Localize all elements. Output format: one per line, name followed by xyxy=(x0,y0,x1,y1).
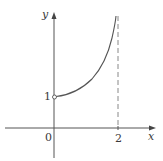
y-axis-label: y xyxy=(42,9,48,20)
y-axis-arrow-icon xyxy=(52,12,57,19)
origin-label: 0 xyxy=(45,132,52,143)
x-tick-label-2: 2 xyxy=(115,133,122,144)
x-axis-label: x xyxy=(148,131,154,142)
y-tick-label-1: 1 xyxy=(44,91,51,102)
open-circle-marker xyxy=(53,95,57,99)
function-graph xyxy=(0,0,163,161)
function-curve xyxy=(56,16,116,97)
